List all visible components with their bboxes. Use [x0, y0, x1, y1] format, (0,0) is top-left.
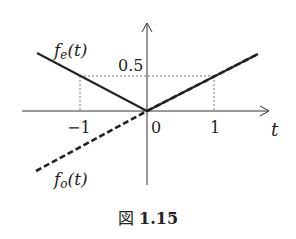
figure-canvas: 0.5 −1 0 1 t fe(t) fo(t) [0, 0, 296, 239]
figure-caption: 図 1.15 [0, 205, 296, 229]
tick-x-0: 0 [151, 118, 161, 137]
y-axis [142, 23, 152, 185]
even-function-label: fe(t) [52, 40, 88, 62]
odd-function-label: fo(t) [52, 169, 88, 191]
tick-x-1: 1 [210, 118, 220, 137]
caption-prefix: 図 [118, 209, 134, 228]
x-axis-label: t [271, 119, 279, 140]
tick-x-neg1: −1 [67, 118, 91, 137]
tick-y-0-5: 0.5 [118, 56, 143, 75]
caption-number: 1.15 [139, 209, 178, 228]
